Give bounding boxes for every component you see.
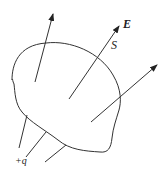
field-arrow-1 — [35, 14, 53, 82]
charge-label-q: +q — [15, 155, 27, 166]
surface-label-s: S — [111, 38, 117, 52]
field-label-e: E — [122, 17, 131, 31]
diagram-canvas: E S +q — [0, 0, 166, 181]
field-arrow-3 — [91, 65, 157, 122]
field-arrow-2 — [69, 26, 119, 99]
charge-field-line-1 — [19, 115, 27, 148]
closed-surface — [12, 43, 120, 153]
charge-field-line-3 — [45, 145, 66, 162]
charge-field-line-2 — [26, 132, 46, 157]
gauss-surface-diagram: E S +q — [0, 0, 166, 181]
